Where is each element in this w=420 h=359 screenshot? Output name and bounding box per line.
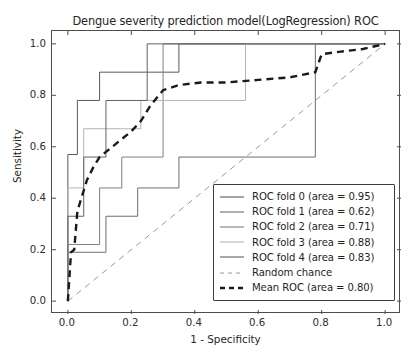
legend-label: ROC fold 1 (area = 0.62) — [252, 206, 374, 217]
legend-line-swatch-icon — [219, 236, 245, 248]
chart-title: Dengue severity prediction model(LogRegr… — [51, 14, 400, 28]
legend-item[interactable]: ROC fold 4 (area = 0.83) — [219, 250, 388, 265]
legend-item[interactable]: Random chance — [219, 265, 388, 280]
y-tick-label: 0.0 — [12, 295, 46, 306]
legend-label: ROC fold 3 (area = 0.88) — [252, 237, 374, 248]
legend-item[interactable]: ROC fold 2 (area = 0.71) — [219, 219, 388, 234]
x-axis-tick-labels: 0.00.20.40.60.81.0 — [51, 317, 400, 333]
legend-label: ROC fold 2 (area = 0.71) — [252, 221, 374, 232]
y-tick-label: 0.4 — [12, 192, 46, 203]
legend-line-swatch-icon — [219, 267, 245, 279]
x-tick-label: 0.6 — [234, 317, 280, 328]
legend-line-swatch-icon — [219, 221, 245, 233]
x-tick-label: 0.4 — [171, 317, 217, 328]
legend-label: ROC fold 4 (area = 0.83) — [252, 252, 374, 263]
x-tick-label: 0.8 — [298, 317, 344, 328]
y-tick-label: 0.6 — [12, 140, 46, 151]
legend-item[interactable]: ROC fold 3 (area = 0.88) — [219, 235, 388, 250]
y-tick-label: 1.0 — [12, 37, 46, 48]
legend-label: Mean ROC (area = 0.80) — [252, 282, 373, 293]
legend-item[interactable]: ROC fold 0 (area = 0.95) — [219, 189, 388, 204]
legend-line-swatch-icon — [219, 251, 245, 263]
x-tick-label: 1.0 — [361, 317, 407, 328]
legend-item[interactable]: Mean ROC (area = 0.80) — [219, 280, 388, 295]
x-tick-label: 0.2 — [107, 317, 153, 328]
x-tick-label: 0.0 — [44, 317, 90, 328]
legend-label: ROC fold 0 (area = 0.95) — [252, 191, 374, 202]
legend-label: Random chance — [252, 267, 332, 278]
x-axis-label: 1 - Specificity — [51, 333, 400, 345]
legend-line-swatch-icon — [219, 206, 245, 218]
legend-line-swatch-icon — [219, 191, 245, 203]
legend-line-swatch-icon — [219, 282, 245, 294]
y-axis-tick-labels: 0.00.20.40.60.81.0 — [8, 30, 46, 313]
chart-legend: ROC fold 0 (area = 0.95)ROC fold 1 (area… — [213, 184, 395, 301]
y-tick-label: 0.2 — [12, 243, 46, 254]
roc-chart-figure: Dengue severity prediction model(LogRegr… — [0, 0, 420, 359]
y-tick-label: 0.8 — [12, 89, 46, 100]
legend-item[interactable]: ROC fold 1 (area = 0.62) — [219, 204, 388, 219]
